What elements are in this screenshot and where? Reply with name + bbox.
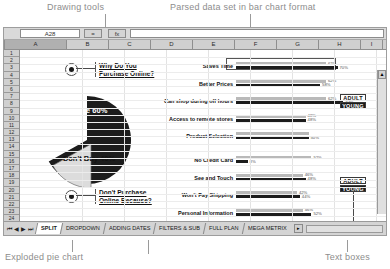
row-header-23[interactable]: 23 <box>4 208 19 215</box>
row-header-15[interactable]: 15 <box>4 151 19 158</box>
grid-row-line <box>20 136 386 137</box>
row-header-17[interactable]: 17 <box>4 165 19 172</box>
formula-input[interactable] <box>130 29 384 38</box>
row-header-2[interactable]: 2 <box>4 57 19 64</box>
annotation-drawing-tools: Drawing tools <box>47 2 104 12</box>
grid-row-line <box>20 187 386 188</box>
tab-spinner[interactable]: ▸ <box>294 224 303 233</box>
cell-grid[interactable]: Why Do You Purchase Online? Don't Purcha… <box>20 50 386 227</box>
bar-young[interactable] <box>236 101 343 104</box>
grid-row-line <box>20 122 386 123</box>
nav-next-button[interactable]: ▶ <box>20 224 27 234</box>
sheet-tab-filters-sub[interactable]: FILTERS & SUB <box>153 223 205 234</box>
column-header-b[interactable]: B <box>67 40 109 49</box>
grid-row-line <box>20 165 386 166</box>
nav-first-button[interactable]: ⏮ <box>6 224 13 234</box>
nav-last-button[interactable]: ⏭ <box>27 224 34 234</box>
row-header-1[interactable]: 1 <box>4 50 19 57</box>
sheet-tab-label: SPLIT <box>41 223 57 234</box>
grid-row-line <box>20 100 386 101</box>
bar-category-label: Personal Information <box>150 210 233 216</box>
row-header-21[interactable]: 21 <box>4 194 19 201</box>
row-header-3[interactable]: 3 <box>4 64 19 71</box>
leader-middle <box>148 240 149 254</box>
grid-row-line <box>20 79 386 80</box>
equals-button[interactable]: = <box>84 29 102 38</box>
sheet-tab-mega-metrix[interactable]: MEGA METRIX <box>242 223 292 234</box>
column-header-a[interactable]: A <box>5 40 67 49</box>
row-header-12[interactable]: 12 <box>4 129 19 136</box>
column-header-i[interactable]: I <box>361 40 383 49</box>
formula-bar: A28 = fx <box>4 28 386 40</box>
tab-nav-buttons[interactable]: ⏮ ◀ ▶ ⏭ <box>4 224 36 234</box>
row-header-8[interactable]: 8 <box>4 100 19 107</box>
sheet-tab-label: FULL PLAN <box>209 223 239 234</box>
bar-young[interactable] <box>236 66 338 69</box>
row-header-5[interactable]: 5 <box>4 79 19 86</box>
row-header-22[interactable]: 22 <box>4 201 19 208</box>
grid-row-line <box>20 201 386 202</box>
leader-text-boxes <box>347 240 348 252</box>
column-header-f[interactable]: F <box>235 40 277 49</box>
row-header-column: 123456789101112131415161718192021222324 <box>4 50 20 227</box>
sheet-tab-adding-dates[interactable]: ADDING DATES <box>103 223 156 234</box>
sheet-tab-label: FILTERS & SUB <box>159 223 200 234</box>
row-header-13[interactable]: 13 <box>4 136 19 143</box>
grid-row-line <box>20 216 386 217</box>
bar-young[interactable] <box>236 195 300 198</box>
bar-value-label: 70% <box>340 66 348 70</box>
name-box[interactable]: A28 <box>20 29 80 38</box>
spreadsheet-window: A28 = fx ABCDEFGHIJ 12345678910111213141… <box>3 27 387 236</box>
row-header-10[interactable]: 10 <box>4 115 19 122</box>
grid-row-line <box>20 64 386 65</box>
sheet-tab-label: MEGA METRIX <box>248 223 287 234</box>
q2-line1: Don't Purchase <box>99 189 152 197</box>
grid-row-line <box>20 129 386 130</box>
grid-row-line <box>20 93 386 94</box>
screenshot-root: Drawing tools Parsed data set in bar cha… <box>0 0 390 269</box>
column-header-h[interactable]: H <box>319 40 361 49</box>
sheet-tab-dropdown[interactable]: DROPDOWN <box>60 223 105 234</box>
row-header-6[interactable]: 6 <box>4 86 19 93</box>
row-header-11[interactable]: 11 <box>4 122 19 129</box>
bar-young[interactable] <box>236 160 248 163</box>
bar-category-label: Access to remote stores <box>150 116 233 122</box>
fx-button[interactable]: fx <box>108 29 126 38</box>
row-header-20[interactable]: 20 <box>4 187 19 194</box>
row-header-9[interactable]: 9 <box>4 108 19 115</box>
grid-row-line <box>20 194 386 195</box>
column-header-c[interactable]: C <box>109 40 151 49</box>
grid-row-line <box>20 108 386 109</box>
grid-row-line <box>20 57 386 58</box>
sheet-tab-bar: ⏮ ◀ ▶ ⏭ SPLITDROPDOWNADDING DATESFILTERS… <box>4 221 386 235</box>
annotation-exploded-pie: Exploded pie chart <box>5 252 83 262</box>
sheet-tab-full-plan[interactable]: FULL PLAN <box>203 223 244 234</box>
column-header-row: ABCDEFGHIJ <box>4 40 386 50</box>
row-header-19[interactable]: 19 <box>4 179 19 186</box>
grid-row-line <box>20 115 386 116</box>
vertical-scrollbar[interactable]: ▲ <box>377 70 386 214</box>
horizontal-scrollbar[interactable] <box>306 225 383 233</box>
bar-adult[interactable] <box>236 132 309 135</box>
sheet-tab-label: DROPDOWN <box>66 223 100 234</box>
column-header-g[interactable]: G <box>277 40 319 49</box>
row-header-18[interactable]: 18 <box>4 172 19 179</box>
row-header-14[interactable]: 14 <box>4 143 19 150</box>
row-header-16[interactable]: 16 <box>4 158 19 165</box>
column-header-d[interactable]: D <box>151 40 193 49</box>
bar-value-label: 44% <box>302 195 310 199</box>
grid-row-line <box>20 86 386 87</box>
sheet-tab-label: ADDING DATES <box>109 223 151 234</box>
sheet-tab-split[interactable]: SPLIT <box>35 223 62 234</box>
grid-row-line <box>20 144 386 145</box>
q1-line1: Why Do You <box>99 62 154 70</box>
grid-row-line <box>20 172 386 173</box>
nav-prev-button[interactable]: ◀ <box>13 224 20 234</box>
row-header-7[interactable]: 7 <box>4 93 19 100</box>
column-header-j[interactable]: J <box>383 40 387 49</box>
column-header-e[interactable]: E <box>193 40 235 49</box>
scroll-up-arrow[interactable]: ▲ <box>378 70 386 79</box>
grid-row-line <box>20 151 386 152</box>
leader-exploded-pie <box>72 240 73 252</box>
row-header-4[interactable]: 4 <box>4 72 19 79</box>
